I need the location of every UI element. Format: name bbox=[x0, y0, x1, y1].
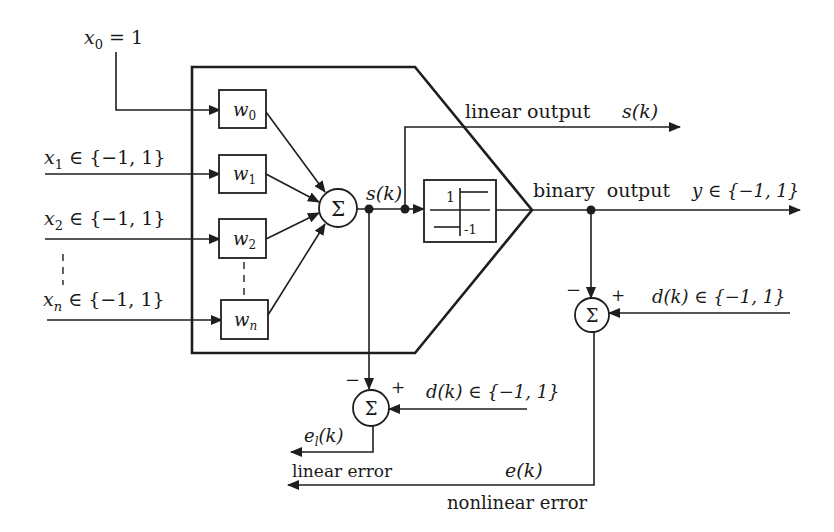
summer-nonlinear-error: − + Σ d(k) ∈ {−1, 1} bbox=[288, 210, 790, 485]
svg-text:−: − bbox=[345, 369, 360, 390]
summer-linear-error: − + Σ d(k) ∈ {−1, 1} bbox=[291, 209, 560, 452]
step-activation: 1 -1 bbox=[424, 180, 496, 242]
svg-text:s(k): s(k) bbox=[622, 100, 658, 122]
weight-wn: wn bbox=[221, 300, 268, 339]
weight-w2: w2 bbox=[219, 219, 266, 258]
svg-text:+: + bbox=[611, 285, 625, 305]
svg-text:x0 = 1: x0 = 1 bbox=[84, 26, 143, 52]
svg-text:1: 1 bbox=[446, 189, 455, 205]
svg-text:+: + bbox=[391, 377, 405, 397]
svg-text:d(k) ∈ {−1, 1}: d(k) ∈ {−1, 1} bbox=[426, 381, 560, 402]
input-x2: x2 ∈ {−1, 1} bbox=[44, 207, 220, 239]
svg-text:linear output: linear output bbox=[465, 100, 591, 122]
svg-text:x2 ∈ {−1, 1}: x2 ∈ {−1, 1} bbox=[44, 207, 166, 233]
input-x1: x1 ∈ {−1, 1} bbox=[44, 146, 220, 174]
neuron-diagram: x0 = 1 x1 ∈ {−1, 1} x2 ∈ {−1, 1} xn ∈ {−… bbox=[0, 0, 834, 532]
nonlinear-error-signal: e(k) bbox=[505, 459, 543, 481]
weight-w0: w0 bbox=[219, 90, 266, 128]
svg-text:-1: -1 bbox=[464, 222, 477, 237]
svg-text:binary output: binary output bbox=[533, 179, 670, 201]
svg-text:Σ: Σ bbox=[365, 398, 378, 419]
input-xn: xn ∈ {−1, 1} bbox=[43, 288, 222, 320]
nonlinear-error-label: nonlinear error bbox=[447, 492, 588, 513]
svg-text:xn ∈ {−1, 1}: xn ∈ {−1, 1} bbox=[43, 288, 165, 314]
svg-text:x1 ∈ {−1, 1}: x1 ∈ {−1, 1} bbox=[44, 146, 166, 172]
svg-text:y ∈ {−1, 1}: y ∈ {−1, 1} bbox=[691, 180, 799, 201]
linear-error-signal: el(k) bbox=[304, 425, 343, 449]
svg-text:−: − bbox=[566, 279, 581, 300]
svg-text:d(k) ∈ {−1, 1}: d(k) ∈ {−1, 1} bbox=[652, 286, 786, 307]
summer-main: Σ bbox=[319, 189, 357, 227]
sum-signal-label: s(k) bbox=[366, 182, 402, 204]
linear-error-label: linear error bbox=[292, 461, 393, 481]
weight-w1: w1 bbox=[219, 155, 266, 193]
binary-output: binary output y ∈ {−1, 1} bbox=[532, 179, 800, 215]
svg-text:Σ: Σ bbox=[586, 305, 599, 326]
svg-text:Σ: Σ bbox=[331, 197, 345, 221]
x0-wire bbox=[116, 52, 220, 110]
